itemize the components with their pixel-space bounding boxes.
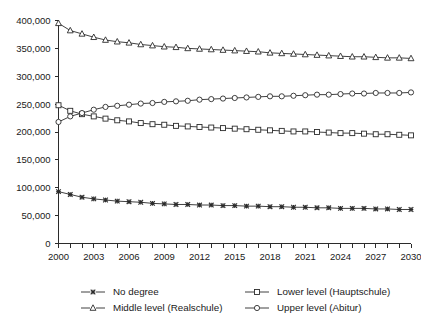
marker-x bbox=[362, 206, 367, 211]
marker-square bbox=[185, 124, 190, 129]
marker-circle bbox=[115, 103, 120, 108]
marker-circle bbox=[256, 94, 261, 99]
marker-x bbox=[409, 207, 414, 212]
marker-x bbox=[232, 203, 237, 208]
marker-circle bbox=[79, 110, 84, 115]
marker-circle bbox=[232, 95, 237, 100]
marker-circle bbox=[91, 107, 96, 112]
marker-square bbox=[409, 133, 414, 138]
y-tick-label: 400,000 bbox=[16, 15, 50, 26]
marker-circle bbox=[209, 97, 214, 102]
marker-square bbox=[291, 129, 296, 134]
marker-square bbox=[174, 123, 179, 128]
y-tick-label: 100,000 bbox=[16, 182, 50, 193]
x-tick-label: 2018 bbox=[259, 251, 280, 262]
marker-circle bbox=[150, 100, 155, 105]
chart-series-group bbox=[56, 20, 414, 212]
x-tick-label: 2015 bbox=[224, 251, 245, 262]
marker-circle bbox=[267, 94, 272, 99]
marker-x bbox=[303, 205, 308, 210]
marker-x bbox=[91, 197, 96, 202]
marker-x bbox=[397, 207, 402, 212]
marker-square bbox=[115, 118, 120, 123]
marker-circle bbox=[397, 90, 402, 95]
x-tick-label: 2024 bbox=[330, 251, 351, 262]
y-tick-label: 200,000 bbox=[16, 126, 50, 137]
legend-item[interactable]: No degree bbox=[81, 286, 159, 297]
marker-circle bbox=[197, 97, 202, 102]
x-tick-label: 2027 bbox=[365, 251, 386, 262]
marker-circle bbox=[220, 96, 225, 101]
marker-triangle bbox=[67, 27, 73, 33]
chart-legend: No degreeLower level (Hauptschule)Middle… bbox=[81, 286, 390, 313]
marker-square bbox=[138, 121, 143, 126]
x-tick-label: 2012 bbox=[189, 251, 210, 262]
marker-circle bbox=[326, 92, 331, 97]
marker-x bbox=[162, 202, 167, 207]
marker-x bbox=[174, 202, 179, 207]
marker-square bbox=[385, 132, 390, 137]
x-tick-label: 2003 bbox=[83, 251, 104, 262]
marker-circle bbox=[185, 98, 190, 103]
marker-x bbox=[373, 207, 378, 212]
marker-x bbox=[197, 203, 202, 208]
marker-circle bbox=[162, 99, 167, 104]
marker-square bbox=[362, 131, 367, 136]
line-chart: 050,000100,000150,000200,000250,000300,0… bbox=[0, 0, 421, 326]
legend-item[interactable]: Lower level (Hauptschule) bbox=[245, 286, 390, 297]
marker-circle bbox=[279, 94, 284, 99]
marker-circle bbox=[138, 101, 143, 106]
y-tick-label: 300,000 bbox=[16, 71, 50, 82]
marker-square bbox=[91, 114, 96, 119]
marker-square bbox=[244, 127, 249, 132]
marker-circle bbox=[350, 91, 355, 96]
marker-square bbox=[373, 132, 378, 137]
marker-circle bbox=[314, 92, 319, 97]
marker-square bbox=[68, 108, 73, 113]
x-tick-label: 2009 bbox=[154, 251, 175, 262]
legend-label: Lower level (Hauptschule) bbox=[277, 286, 390, 297]
marker-square bbox=[56, 103, 61, 108]
marker-x bbox=[127, 199, 132, 204]
marker-circle bbox=[68, 114, 73, 119]
y-tick-label: 250,000 bbox=[16, 99, 50, 110]
marker-square bbox=[162, 122, 167, 127]
marker-x bbox=[150, 201, 155, 206]
marker-x bbox=[68, 192, 73, 197]
legend-item[interactable]: Middle level (Realschule) bbox=[81, 302, 222, 313]
marker-x bbox=[279, 204, 284, 209]
x-tick-label: 2021 bbox=[295, 251, 316, 262]
legend-item[interactable]: Upper level (Abitur) bbox=[245, 302, 361, 313]
marker-square bbox=[326, 130, 331, 135]
legend-label: Upper level (Abitur) bbox=[277, 302, 361, 313]
marker-circle bbox=[291, 93, 296, 98]
marker-circle bbox=[126, 102, 131, 107]
marker-square bbox=[350, 131, 355, 136]
marker-circle bbox=[385, 90, 390, 95]
marker-circle bbox=[303, 93, 308, 98]
marker-circle bbox=[254, 305, 259, 310]
marker-circle bbox=[56, 119, 61, 124]
x-axis: 2000200320062009201220152018202120242027… bbox=[48, 244, 421, 262]
marker-square bbox=[256, 127, 261, 132]
marker-x bbox=[338, 206, 343, 211]
y-tick-label: 50,000 bbox=[21, 210, 50, 221]
marker-x bbox=[91, 290, 96, 295]
series-x bbox=[56, 189, 413, 211]
legend-label: Middle level (Realschule) bbox=[113, 302, 222, 313]
marker-circle bbox=[103, 104, 108, 109]
marker-x bbox=[138, 200, 143, 205]
marker-x bbox=[185, 202, 190, 207]
y-tick-label: 350,000 bbox=[16, 43, 50, 54]
series-square bbox=[56, 103, 414, 138]
marker-square bbox=[315, 130, 320, 135]
x-tick-label: 2006 bbox=[118, 251, 139, 262]
marker-square bbox=[197, 124, 202, 129]
marker-x bbox=[115, 199, 120, 204]
marker-circle bbox=[338, 91, 343, 96]
x-tick-label: 2000 bbox=[48, 251, 69, 262]
y-axis: 050,000100,000150,000200,000250,000300,0… bbox=[16, 15, 58, 249]
legend-label: No degree bbox=[113, 286, 159, 297]
marker-x bbox=[221, 203, 226, 208]
marker-square bbox=[232, 126, 237, 131]
